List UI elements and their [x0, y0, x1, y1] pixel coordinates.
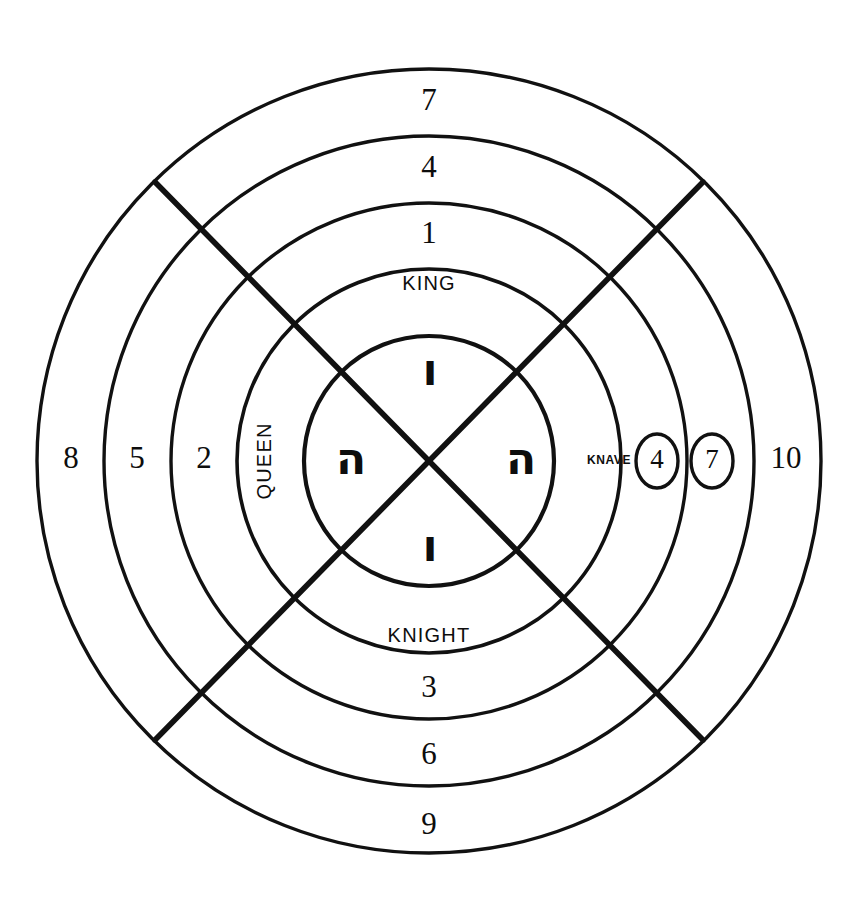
label-bottom-6: 6 — [421, 736, 437, 771]
top-labels: 7 4 1 KING — [402, 82, 456, 294]
label-bottom-9: 9 — [421, 806, 437, 841]
hebrew-letter-top: ו — [422, 344, 437, 395]
label-right-7: 7 — [705, 444, 719, 474]
label-left-queen: QUEEN — [253, 422, 275, 499]
left-labels: QUEEN 2 5 8 — [63, 422, 275, 499]
label-left-2: 2 — [196, 440, 212, 475]
label-right-4: 4 — [650, 444, 664, 474]
hebrew-letter-bottom: ו — [422, 520, 437, 571]
label-top-7: 7 — [421, 82, 437, 117]
concentric-wheel-svg: 7 4 1 KING KNIGHT 3 6 9 QUEEN 2 5 8 KNAV… — [0, 0, 853, 909]
label-top-king: KING — [402, 272, 456, 294]
label-right-10: 10 — [771, 440, 802, 475]
label-top-1: 1 — [421, 215, 437, 250]
hebrew-letter-right: ה — [506, 433, 536, 484]
diagram-canvas: 7 4 1 KING KNIGHT 3 6 9 QUEEN 2 5 8 KNAV… — [0, 0, 853, 909]
hebrew-letter-left: ה — [336, 433, 366, 484]
label-bottom-knight: KNIGHT — [388, 624, 471, 646]
label-left-5: 5 — [129, 440, 145, 475]
label-right-knave: KNAVE — [587, 453, 631, 467]
label-bottom-3: 3 — [421, 669, 437, 704]
label-left-8: 8 — [63, 440, 79, 475]
label-top-4: 4 — [421, 149, 437, 184]
bottom-labels: KNIGHT 3 6 9 — [388, 624, 471, 841]
